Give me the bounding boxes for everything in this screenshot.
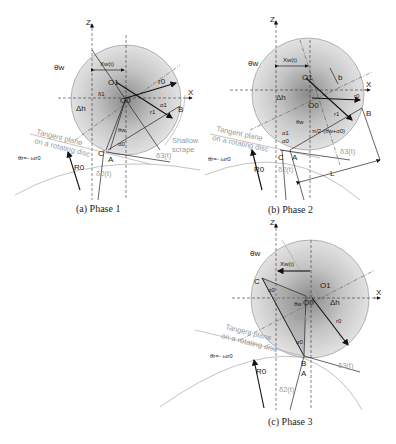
label-theta-w-dot: θ̇w (250, 249, 260, 258)
figure: Z X θ̇w Xw(t) O1 O0 r0 α1 r1 B δ1 Δh θw … (0, 0, 396, 444)
label-delta1: δ1(t) (294, 313, 310, 322)
label-R0: R0 (74, 163, 85, 172)
label-delta1: δ1 (98, 91, 105, 97)
label-R0: R0 (256, 367, 267, 376)
label-r1: r1 (150, 109, 156, 115)
label-delta2: δ2(t) (278, 165, 294, 174)
label-a: A (292, 153, 298, 162)
label-o1: O1 (320, 281, 331, 290)
caption-phase-2: (b) Phase 2 (268, 204, 313, 216)
label-x: X (366, 80, 372, 89)
label-x-w: Xw(t) (100, 61, 114, 67)
label-x: X (376, 288, 382, 297)
label-alpha0-top: α0 (268, 287, 275, 293)
label-scrape: scrape (172, 145, 195, 154)
label-o0: O0 (120, 96, 131, 105)
panel-phase-2: Z X θ̇w Xw(t) O1 b O0 r0 r1 B Δh θw α1 α… (205, 15, 380, 216)
label-pi-expression: π/2-(θw+α0) (312, 128, 345, 134)
label-theta-r: θ̇r=- ωr0 (208, 156, 231, 162)
label-x: X (188, 88, 194, 97)
label-z: Z (86, 18, 91, 27)
label-b-small: b (338, 73, 343, 82)
label-theta-w-dot: θ̇w (248, 59, 258, 68)
caption-phase-1: (a) Phase 1 (76, 203, 120, 215)
label-r0: r0 (336, 318, 342, 324)
label-r1: r1 (334, 111, 340, 117)
grinding-wheel (252, 38, 364, 150)
label-delta3: δ3(t) (156, 151, 172, 160)
label-delta3: δ3(t) (340, 147, 356, 156)
label-R0: R0 (254, 165, 265, 174)
label-delta-h: Δh (76, 104, 86, 113)
label-c: C (278, 153, 284, 162)
label-alpha0: α0 (296, 339, 303, 345)
label-z: Z (270, 15, 275, 24)
label-theta-r: θ̇r=- ωr0 (210, 353, 233, 359)
label-a: A (108, 155, 114, 164)
caption-phase-3: (c) Phase 3 (268, 416, 312, 428)
label-o0: O0 (303, 298, 314, 307)
panel-phase-1: Z X θ̇w Xw(t) O1 O0 r0 α1 r1 B δ1 Δh θw … (15, 18, 200, 215)
label-alpha1: α1 (282, 130, 289, 136)
label-r0: r0 (354, 93, 360, 99)
label-b: B (366, 109, 371, 118)
label-o1: O1 (108, 78, 119, 87)
label-theta-w: θw (294, 301, 302, 307)
label-L: L (330, 169, 335, 178)
label-delta2: δ2(t) (279, 385, 295, 394)
label-alpha0: α0 (118, 141, 125, 147)
label-delta3: δ3(t) (338, 361, 354, 370)
panel-phase-3: Z X θ̇w Xw(t) O1 O0 C α0 θw δ1(t) Δh r0 … (160, 218, 382, 428)
label-theta-r: θ̇r=- ωr0 (18, 155, 41, 161)
label-theta-w: θw (296, 119, 304, 125)
label-delta2: δ2(t) (96, 169, 112, 178)
label-theta-w-dot: θ̇w (54, 63, 64, 72)
label-b: B (301, 359, 306, 368)
label-o0: O0 (308, 101, 319, 110)
label-z: Z (270, 218, 275, 227)
label-r0: r0 (158, 77, 166, 86)
label-delta-h: Δh (330, 298, 340, 307)
label-alpha0: α0 (282, 138, 289, 144)
label-a: A (301, 369, 307, 378)
label-x-w: Xw(t) (280, 261, 294, 267)
label-shallow: Shallow (172, 136, 199, 145)
label-b: B (178, 105, 183, 114)
label-o1: O1 (302, 73, 313, 82)
label-alpha1: α1 (160, 102, 167, 108)
label-c: C (98, 149, 104, 158)
rotating-disc-arc (160, 356, 362, 410)
label-theta-w: θw (118, 127, 126, 133)
label-x-w: Xw(t) (283, 57, 297, 63)
label-c: C (254, 277, 260, 286)
label-delta-h: Δh (276, 93, 286, 102)
